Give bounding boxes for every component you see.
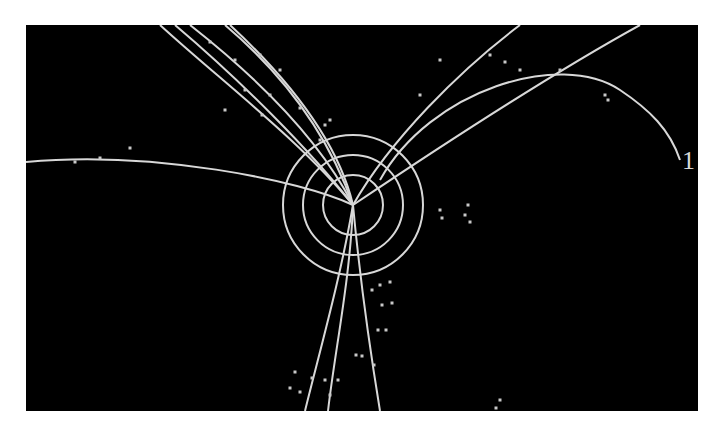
hit-point — [319, 139, 322, 142]
hit-point — [489, 54, 492, 57]
hit-point — [355, 354, 358, 357]
particle-track — [353, 205, 380, 411]
hit-point — [377, 329, 380, 332]
hit-point — [373, 364, 376, 367]
hit-point — [469, 221, 472, 224]
hit-point — [495, 407, 498, 410]
hit-point — [379, 284, 382, 287]
hit-point — [504, 61, 507, 64]
hit-point — [261, 114, 264, 117]
hit-point — [299, 107, 302, 110]
hit-point — [499, 399, 502, 402]
hit-point — [604, 94, 607, 97]
hit-point — [279, 69, 282, 72]
hit-point — [391, 302, 394, 305]
hit-point — [324, 124, 327, 127]
hit-point — [464, 214, 467, 217]
hit-point — [385, 329, 388, 332]
hit-point — [329, 119, 332, 122]
hit-point — [439, 209, 442, 212]
hit-point — [299, 391, 302, 394]
particle-track — [305, 205, 353, 411]
hit-point — [244, 89, 247, 92]
hit-point — [234, 59, 237, 62]
hit-point — [209, 41, 212, 44]
hit-point — [607, 99, 610, 102]
hit-point — [337, 379, 340, 382]
event-display — [26, 25, 698, 411]
hit-point — [99, 157, 102, 160]
track-canvas — [26, 25, 698, 411]
hit-point — [361, 355, 364, 358]
hit-point — [329, 394, 332, 397]
hit-point — [559, 69, 562, 72]
hit-point — [259, 54, 262, 57]
hit-point — [439, 59, 442, 62]
hit-point — [467, 204, 470, 207]
hit-point — [324, 379, 327, 382]
particle-track — [230, 25, 353, 205]
hit-point — [419, 94, 422, 97]
hit-point — [371, 289, 374, 292]
hit-point — [311, 377, 314, 380]
hit-point — [389, 281, 392, 284]
hit-point — [519, 69, 522, 72]
hit-point — [269, 94, 272, 97]
hit-point — [224, 109, 227, 112]
hit-point — [74, 161, 77, 164]
hit-point — [294, 371, 297, 374]
event-label: 1 — [682, 146, 695, 176]
hit-point — [381, 304, 384, 307]
hit-point — [441, 217, 444, 220]
hit-point — [129, 147, 132, 150]
particle-track — [353, 25, 520, 205]
hit-point — [289, 387, 292, 390]
